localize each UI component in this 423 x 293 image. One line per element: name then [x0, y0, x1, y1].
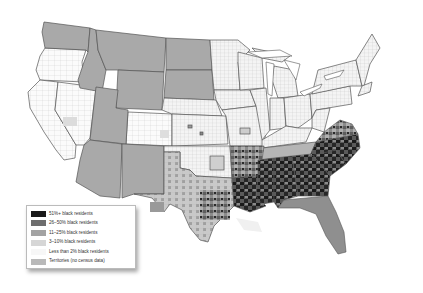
legend-item-51-plus: 51%+ black residents	[31, 209, 131, 219]
legend-label: Less than 2% black residents	[49, 250, 109, 255]
legend-label: 26–50% black residents	[49, 221, 98, 226]
legend-label: 11–25% black residents	[49, 231, 97, 236]
legend-item-11-25: 11–25% black residents	[31, 228, 131, 238]
legend-swatch	[31, 259, 46, 265]
legend-swatch	[31, 220, 46, 226]
legend-label: 3–10% black residents	[49, 240, 95, 245]
legend-item-3-10: 3–10% black residents	[31, 238, 131, 248]
legend-swatch	[31, 249, 46, 255]
legend-item-territories: Territories (no census data)	[31, 257, 131, 267]
legend-swatch	[31, 240, 46, 246]
legend-swatch	[31, 230, 46, 236]
map-legend: 51%+ black residents 26–50% black reside…	[26, 205, 136, 269]
legend-label: Territories (no census data)	[49, 259, 105, 264]
legend-item-26-50: 26–50% black residents	[31, 219, 131, 229]
legend-swatch	[31, 211, 46, 217]
legend-item-less-than-2: Less than 2% black residents	[31, 247, 131, 257]
legend-label: 51%+ black residents	[49, 212, 93, 217]
gulf-shadow	[236, 218, 262, 232]
